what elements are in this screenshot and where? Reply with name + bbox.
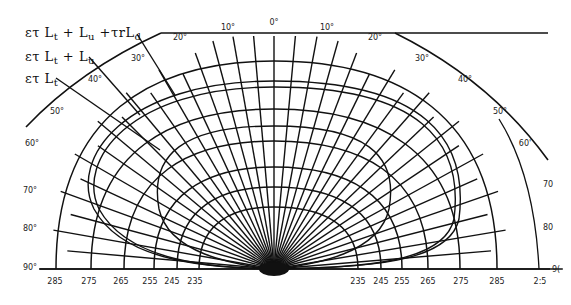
angle-label-left: 80°: [23, 224, 37, 233]
angle-label-right: 10°: [320, 23, 334, 32]
angle-label-right: 9(: [552, 265, 560, 274]
ring-label-right: 255: [394, 277, 409, 286]
angle-label-left: 20°: [173, 33, 187, 42]
grid-radial-line: [67, 251, 274, 269]
legend-leader-total: [137, 34, 175, 95]
angle-label-right: 20°: [368, 33, 382, 42]
ring-label-left: 265: [113, 277, 128, 286]
polar-grid: [39, 36, 563, 269]
ring-label-right: 245: [373, 277, 388, 286]
grid-radial-line: [183, 74, 274, 269]
grid-radial-line: [274, 41, 338, 269]
grid-radial-line: [274, 74, 369, 269]
ring-label-right: 2:5: [534, 277, 547, 286]
angle-label-left: 70°: [23, 186, 37, 195]
angle-label-right: 70: [543, 180, 553, 189]
grid-radial-line: [274, 251, 491, 269]
angle-label-left: 50°: [50, 107, 64, 116]
ring-label-right: 285: [489, 277, 504, 286]
ring-label-left: 235: [187, 277, 202, 286]
angle-label-zenith: 0°: [269, 18, 278, 27]
ring-label-left: 275: [81, 277, 96, 286]
grid-radial-line: [71, 215, 274, 270]
ring-label-left: 255: [142, 277, 157, 286]
angle-label-left: 60°: [25, 139, 39, 148]
legend-total: ετ Lt + Lu +τrLd: [25, 25, 141, 42]
angle-label-right: 80: [543, 223, 553, 232]
angle-label-left: 90°: [23, 263, 37, 272]
legend-surface-upwelling: ετ Lt + Lu: [25, 49, 95, 66]
ring-label-right: 265: [420, 277, 435, 286]
angle-label-right: 60': [519, 139, 531, 148]
grid-radial-line: [254, 36, 274, 269]
angle-label-right: 50°: [493, 107, 507, 116]
grid-radial-line: [213, 41, 274, 269]
angle-label-right: 30°: [415, 54, 429, 63]
polar-radiance-diagram: 0°10°20°30°40°50°60°70°80°90°10°20°30°40…: [0, 0, 571, 305]
ring-label-right: 275: [453, 277, 468, 286]
grid-radial-line: [274, 36, 295, 269]
ring-label-left: 245: [164, 277, 179, 286]
grid-radial-line: [274, 179, 477, 269]
angle-label-right: 40°: [458, 75, 472, 84]
nadir-blob: [259, 262, 289, 276]
ring-label-left: 285: [47, 277, 62, 286]
legend-surface: ετ Lt: [25, 71, 58, 88]
angle-label-left: 40°: [88, 75, 102, 84]
angle-label-left: 10°: [221, 23, 235, 32]
ring-label-right: 235: [350, 277, 365, 286]
angle-label-left: 30°: [131, 54, 145, 63]
